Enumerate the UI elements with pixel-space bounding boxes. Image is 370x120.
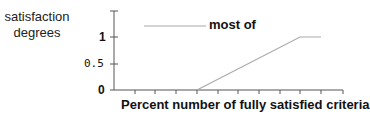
- series-most-of: [197, 37, 321, 90]
- x-axis-label: Percent number of fully satisfied criter…: [121, 97, 370, 112]
- x-ticks: [135, 90, 343, 94]
- legend-label: most of: [209, 17, 256, 32]
